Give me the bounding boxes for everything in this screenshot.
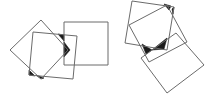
left-figure — [10, 20, 108, 79]
top-square — [125, 1, 174, 50]
bottom-square — [141, 33, 204, 93]
diagram-canvas — [0, 0, 209, 94]
right-figure — [125, 1, 204, 93]
upright-square — [64, 22, 108, 65]
diamond-square — [10, 20, 68, 79]
tilted-square — [29, 32, 77, 79]
overlapping-squares-diagram — [0, 0, 209, 94]
rotated-square — [129, 5, 187, 62]
